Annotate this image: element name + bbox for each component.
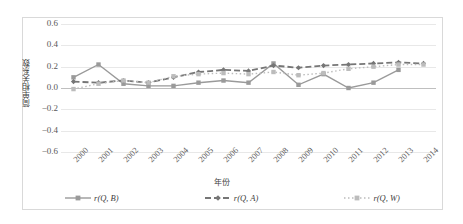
data-point-marker bbox=[196, 72, 200, 76]
data-point-marker bbox=[121, 78, 125, 82]
data-point-marker bbox=[71, 75, 75, 79]
data-point-marker bbox=[221, 78, 225, 82]
legend-item[interactable]: r(Q, B) bbox=[65, 193, 119, 203]
data-point-marker bbox=[171, 74, 175, 78]
legend-item[interactable]: r(Q, W) bbox=[344, 193, 399, 203]
data-point-marker bbox=[96, 62, 100, 66]
data-point-marker bbox=[396, 68, 400, 72]
data-point-marker bbox=[321, 71, 325, 75]
data-point-marker bbox=[221, 71, 225, 75]
data-point-marker bbox=[196, 80, 200, 84]
data-point-marker bbox=[421, 62, 425, 66]
legend-label: r(Q, A) bbox=[234, 193, 258, 203]
data-point-marker bbox=[346, 67, 350, 71]
legend-swatch-icon bbox=[65, 193, 91, 203]
data-point-marker bbox=[371, 80, 375, 84]
data-point-marker bbox=[246, 72, 250, 76]
chart-legend: r(Q, B)r(Q, A)r(Q, W) bbox=[22, 190, 443, 206]
legend-swatch-icon bbox=[205, 193, 231, 203]
data-point-marker bbox=[246, 80, 250, 84]
data-point-marker bbox=[146, 80, 150, 84]
y-tick-label: 0.6 bbox=[24, 18, 58, 28]
data-point-marker bbox=[346, 62, 351, 67]
data-point-marker bbox=[346, 86, 350, 90]
y-tick-label: −0.4 bbox=[24, 125, 58, 135]
y-tick-label: −0.2 bbox=[24, 103, 58, 113]
legend-label: r(Q, W) bbox=[373, 193, 399, 203]
y-tick-label: 0.0 bbox=[24, 82, 58, 92]
data-point-marker bbox=[71, 79, 76, 84]
data-point-marker bbox=[321, 63, 326, 68]
data-point-marker bbox=[171, 84, 175, 88]
data-point-marker bbox=[296, 73, 300, 77]
y-tick-label: −0.6 bbox=[24, 146, 58, 156]
legend-label: r(Q, B) bbox=[94, 193, 119, 203]
data-point-marker bbox=[296, 65, 301, 70]
series-line bbox=[74, 65, 424, 90]
y-tick-label: 0.4 bbox=[24, 39, 58, 49]
legend-swatch-icon bbox=[344, 193, 370, 203]
data-point-marker bbox=[271, 70, 275, 74]
plot-area bbox=[61, 24, 436, 152]
data-point-marker bbox=[396, 62, 400, 66]
x-axis-title: 年份 bbox=[0, 176, 443, 187]
data-point-marker bbox=[71, 87, 75, 91]
data-point-marker bbox=[371, 64, 375, 68]
legend-item[interactable]: r(Q, A) bbox=[205, 193, 258, 203]
data-point-marker bbox=[96, 82, 100, 86]
series-lines bbox=[61, 24, 436, 152]
y-tick-label: 0.2 bbox=[24, 61, 58, 71]
data-point-marker bbox=[296, 83, 300, 87]
